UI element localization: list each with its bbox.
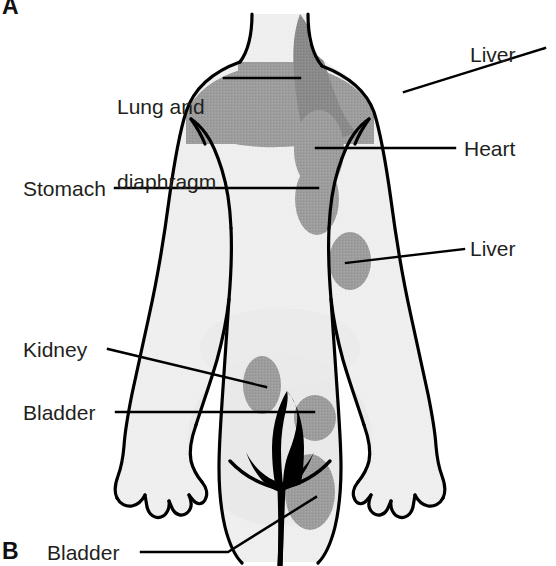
label-lung-and-diaphragm: Lung and diaphragm [117, 44, 216, 244]
label-heart: Heart [464, 136, 515, 161]
referred-pain-figure: A B Lung and diaphragm Stomach Kidney Bl… [0, 0, 556, 566]
label-bladder-left: Bladder [23, 400, 95, 425]
anatomy-illustration [0, 0, 556, 566]
panel-letter-a: A [2, 0, 19, 20]
label-kidney: Kidney [23, 337, 87, 362]
label-lung-and-diaphragm-line2: diaphragm [117, 169, 216, 194]
label-liver-lower: Liver [470, 236, 516, 261]
panel-letter-b: B [2, 538, 19, 565]
label-bladder-bottom: Bladder [47, 540, 119, 565]
label-stomach: Stomach [23, 176, 106, 201]
label-liver-top: Liver [470, 42, 516, 67]
label-lung-and-diaphragm-line1: Lung and [117, 94, 216, 119]
